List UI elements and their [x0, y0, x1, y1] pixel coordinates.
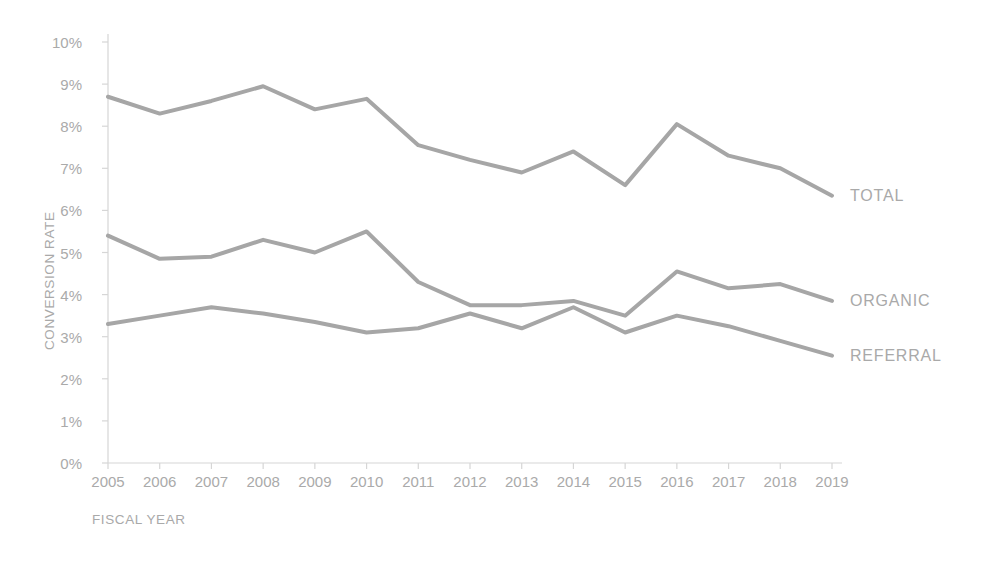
conversion-rate-line-chart: CONVERSION RATE FISCAL YEAR 0%1%2%3%4%5%… [0, 0, 997, 564]
series-line-referral [108, 307, 832, 355]
series-label-referral: REFERRAL [850, 347, 942, 365]
series-line-total [108, 86, 832, 195]
plot-area [0, 0, 997, 564]
series-line-organic [108, 231, 832, 315]
series-label-total: TOTAL [850, 187, 904, 205]
series-label-organic: ORGANIC [850, 292, 930, 310]
